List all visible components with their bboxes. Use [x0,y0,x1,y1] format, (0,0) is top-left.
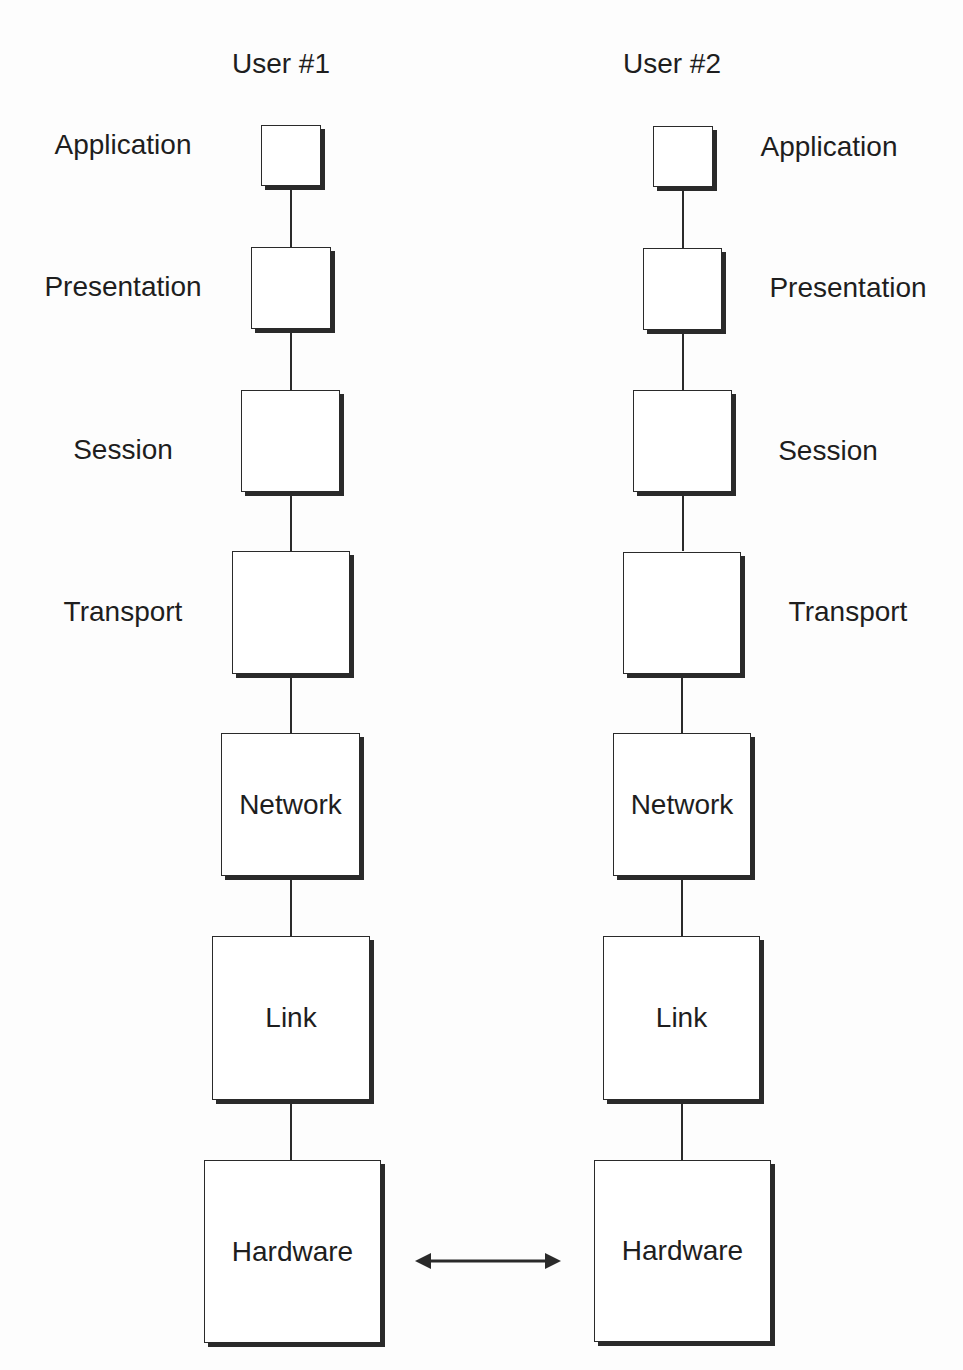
bidirectional-arrow-icon [0,0,963,1370]
osi-diagram: User #1 User #2 Application Presentation… [0,0,963,1370]
